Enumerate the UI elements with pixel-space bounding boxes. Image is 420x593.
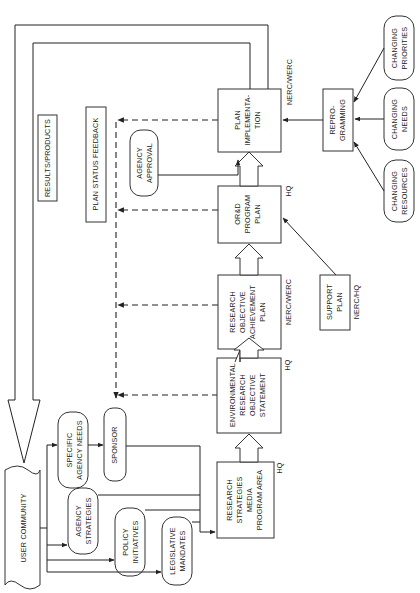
svg-text:PLAN: PLAN [258,302,267,322]
plan-implementation-box: PLAN IMPLEMENTA- TION NERC/WERC [218,59,294,152]
svg-text:OR&D: OR&D [233,203,242,225]
svg-text:NERC/HQ: NERC/HQ [352,285,361,320]
agency-strategies-node: AGENCY STRATEGIES [68,488,98,554]
svg-text:GRAMMING: GRAMMING [338,99,347,141]
svg-text:SPECIFIC: SPECIFIC [65,433,74,468]
svg-text:NEEDS: NEEDS [400,106,409,132]
svg-text:NERC/WERC: NERC/WERC [284,279,293,325]
svg-text:CHANGING: CHANGING [390,171,399,212]
env-research-objective-box: ENVIRONMENTAL RESEARCH OBJECTIVE STATEME… [217,358,292,433]
svg-text:RESULTS/PRODUCTS: RESULTS/PRODUCTS [43,119,52,197]
svg-text:RESEARCH: RESEARCH [238,374,247,416]
svg-text:STATEMENT: STATEMENT [258,372,267,417]
svg-text:NERC/WERC: NERC/WERC [285,59,294,105]
svg-text:LEGISLATIVE: LEGISLATIVE [168,527,177,575]
results-products-label: RESULTS/PRODUCTS [38,115,57,201]
research-strategies-box: RESEARCH STRATEGIES MEDIA PROGRAM AREA H… [217,462,284,538]
svg-text:USER COMMUNITY: USER COMMUNITY [19,493,28,562]
changing-resources-node: CHANGING RESOURCES [354,142,414,222]
plan-status-feedback-label: PLAN STATUS FEEDBACK [86,107,106,222]
svg-text:APPROVAL: APPROVAL [145,143,154,183]
svg-text:AGENCY: AGENCY [74,505,83,537]
svg-text:PRIORITIES: PRIORITIES [400,27,409,70]
svg-text:OBJECTIVE: OBJECTIVE [238,291,247,333]
svg-text:SUPPORT: SUPPORT [325,284,334,320]
svg-text:CHANGING: CHANGING [390,28,399,69]
planning-process-diagram: USER COMMUNITY RESULTS/PRODUCTS PLAN STA… [0,0,420,593]
svg-text:MANDATES: MANDATES [178,530,187,571]
svg-text:CHANGING: CHANGING [390,99,399,140]
legislative-mandates-node: LEGISLATIVE MANDATES [162,517,192,585]
svg-text:SPONSOR: SPONSOR [110,426,119,463]
svg-text:STRATEGIES: STRATEGIES [235,476,244,523]
support-plan-node: SUPPORT PLAN NERC/HQ [283,218,361,330]
svg-text:HQ: HQ [284,185,293,196]
svg-text:PLAN: PLAN [335,292,344,312]
svg-text:REPRO-: REPRO- [328,105,337,135]
changing-needs-node: CHANGING NEEDS [355,88,414,150]
ord-program-plan-box: OR&D PROGRAM PLAN HQ [218,185,293,243]
research-objective-achievement-box: RESEARCH OBJECTIVE ACHIEVEMENT PLAN NERC… [218,275,293,349]
svg-text:AGENCY NEEDS: AGENCY NEEDS [75,420,84,479]
policy-initiatives-node: POLICY INITIATIVES [115,508,145,576]
svg-text:OBJECTIVE: OBJECTIVE [248,374,257,416]
svg-text:PLAN STATUS FEEDBACK: PLAN STATUS FEEDBACK [91,118,100,211]
svg-text:ACHIEVEMENT: ACHIEVEMENT [248,285,257,340]
svg-text:RESEARCH: RESEARCH [228,291,237,333]
svg-text:TION: TION [253,111,262,129]
svg-text:AGENCY: AGENCY [135,147,144,179]
sponsor-node: SPONSOR [104,408,126,481]
svg-text:INITIATIVES: INITIATIVES [131,521,140,564]
svg-text:RESOURCES: RESOURCES [400,167,409,214]
user-community-banner: USER COMMUNITY [5,466,40,589]
svg-text:ENVIRONMENTAL: ENVIRONMENTAL [228,363,237,427]
svg-text:STRATEGIES: STRATEGIES [84,497,93,544]
svg-text:POLICY: POLICY [121,528,130,556]
svg-text:IMPLEMENTA-: IMPLEMENTA- [243,94,252,145]
svg-text:MEDIA: MEDIA [245,488,254,512]
svg-text:PROGRAM: PROGRAM [243,195,252,234]
svg-text:PLAN: PLAN [253,204,262,224]
specific-agency-needs-node: SPECIFIC AGENCY NEEDS [58,412,88,488]
svg-text:PROGRAM AREA: PROGRAM AREA [255,470,264,531]
svg-text:HQ: HQ [283,359,292,370]
svg-text:HQ: HQ [275,462,284,473]
svg-text:RESEARCH: RESEARCH [225,479,234,521]
svg-text:PLAN: PLAN [233,110,242,130]
